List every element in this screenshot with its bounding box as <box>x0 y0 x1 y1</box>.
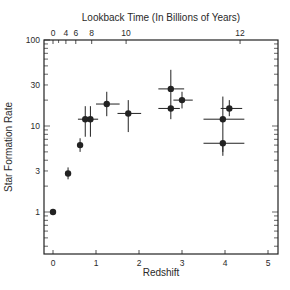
point-marker <box>226 105 232 111</box>
point-marker <box>220 140 226 146</box>
x2-tick-label: 10 <box>121 28 131 38</box>
y-axis-title: Star Formation Rate <box>3 102 14 192</box>
star-formation-chart: 01234513103010004681012 Lookback Time (I… <box>0 0 290 290</box>
y-tick-label: 100 <box>26 35 40 45</box>
x-tick-label: 1 <box>94 258 99 268</box>
x-tick-label: 3 <box>180 258 185 268</box>
data-point <box>50 209 56 215</box>
point-marker <box>168 86 174 92</box>
x-tick-label: 5 <box>266 258 271 268</box>
point-marker <box>179 97 185 103</box>
x2-tick-label: 8 <box>89 28 94 38</box>
x-tick-label: 2 <box>137 258 142 268</box>
x2-tick-label: 6 <box>73 28 78 38</box>
top-axis-title: Lookback Time (In Billions of Years) <box>82 12 240 23</box>
x2-tick-label: 12 <box>235 28 245 38</box>
x2-tick-label: 0 <box>51 28 56 38</box>
point-marker <box>50 209 56 215</box>
x-axis-title: Redshift <box>143 267 180 278</box>
x-tick-label: 4 <box>223 258 228 268</box>
point-marker <box>77 142 83 148</box>
y-tick-label: 10 <box>31 121 41 131</box>
point-marker <box>168 105 174 111</box>
point-marker <box>65 170 71 176</box>
y-tick-label: 1 <box>35 207 40 217</box>
point-marker <box>87 116 93 122</box>
x-tick-label: 0 <box>51 258 56 268</box>
y-tick-label: 3 <box>35 166 40 176</box>
y-tick-label: 30 <box>31 80 41 90</box>
point-marker <box>104 101 110 107</box>
x2-tick-label: 4 <box>64 28 69 38</box>
point-marker <box>220 116 226 122</box>
point-marker <box>125 110 131 116</box>
